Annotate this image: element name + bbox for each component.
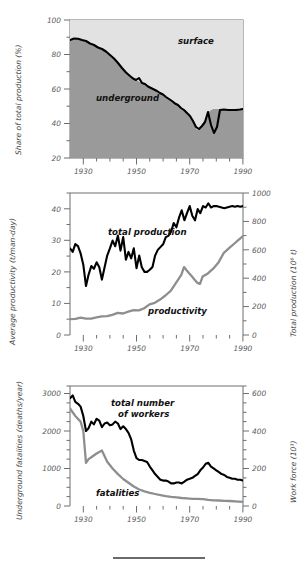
chart3-y2tick-200: 200	[252, 464, 266, 473]
chart1-ytick-40: 40	[52, 119, 62, 128]
chart2-y2tick-200: 200	[252, 302, 266, 311]
chart2-annotation-total-production: total production	[108, 227, 187, 237]
chart2-xtick-1930: 1930	[74, 344, 93, 353]
chart2-y2tick-600: 600	[252, 246, 266, 255]
chart2-y2tick-800: 800	[252, 217, 266, 226]
chart2-xtick-1970: 1970	[180, 344, 199, 353]
chart3-x-ticks	[83, 506, 243, 513]
chart1-ytick-80: 80	[52, 50, 62, 59]
chart-panel-share-of-production: Share of total production (%)	[0, 0, 305, 185]
chart1-x-tick-labels: 1930 1950 1970 1990	[74, 167, 253, 176]
chart1-y-tick-labels: 100 80 60 40 20	[47, 16, 61, 163]
chart2-y2-tick-labels: 0 200 400 600 800 1000	[252, 189, 271, 340]
chart-svg-2: Average productivity (t/man-day) Total p…	[0, 185, 305, 370]
chart3-xtick-1970: 1970	[180, 515, 199, 524]
chart2-xtick-1990: 1990	[233, 344, 252, 353]
chart1-xtick-1990: 1990	[233, 167, 252, 176]
chart3-annotation-of-workers: of workers	[118, 409, 169, 419]
chart1-xtick-1950: 1950	[127, 167, 146, 176]
chart1-ytick-20: 20	[52, 154, 62, 163]
footer-rule	[113, 557, 205, 559]
chart2-ytick-10: 10	[52, 299, 62, 308]
chart3-xtick-1950: 1950	[127, 515, 146, 524]
chart1-xtick-1970: 1970	[180, 167, 199, 176]
chart2-ytick-0: 0	[56, 331, 61, 340]
chart2-y-tick-labels: 0 10 20 30 40	[52, 205, 62, 340]
chart2-y2tick-0: 0	[252, 331, 257, 340]
chart1-ytick-100: 100	[47, 16, 61, 25]
chart2-y2tick-1000: 1000	[252, 189, 271, 198]
chart1-annotation-underground: underground	[96, 93, 160, 103]
chart2-xtick-1950: 1950	[127, 344, 146, 353]
figure-page: Share of total production (%)	[0, 0, 305, 574]
chart-panel-productivity-production: Average productivity (t/man-day) Total p…	[0, 185, 305, 370]
chart3-ytick-3000: 3000	[42, 389, 61, 398]
chart3-annotation-total-number: total number	[111, 398, 175, 408]
chart-svg-3: Underground fatalities (deaths/year) Wor…	[0, 370, 305, 574]
chart1-series-group	[70, 20, 243, 158]
chart2-total-production-line	[70, 203, 243, 286]
chart-panel-fatalities-workforce: Underground fatalities (deaths/year) Wor…	[0, 370, 305, 574]
chart-svg-1: Share of total production (%)	[0, 0, 305, 185]
chart2-x-tick-labels: 1930 1950 1970 1990	[74, 344, 253, 353]
chart2-y2-axis-title: Total production (10⁶ t)	[289, 249, 298, 337]
chart2-ytick-30: 30	[52, 236, 62, 245]
chart3-xtick-1990: 1990	[233, 515, 252, 524]
chart3-annotation-fatalities: fatalities	[96, 488, 139, 498]
chart3-y2-axis-title: Work force (10³)	[289, 441, 298, 503]
chart2-y-axis-title: Average productivity (t/man-day)	[8, 218, 17, 346]
chart3-ytick-1000: 1000	[42, 464, 61, 473]
chart3-y2-tick-labels: 0 200 400 600	[252, 389, 266, 511]
chart1-xtick-1930: 1930	[74, 167, 93, 176]
chart3-x-tick-labels: 1930 1950 1970 1990	[74, 515, 253, 524]
chart2-ytick-20: 20	[52, 268, 62, 277]
chart3-y2tick-0: 0	[252, 502, 257, 511]
chart2-x-ticks	[83, 335, 243, 342]
chart1-y-axis-title: Share of total production (%)	[14, 44, 23, 155]
chart2-y2-ticks	[243, 193, 249, 335]
chart3-xtick-1930: 1930	[74, 515, 93, 524]
chart3-y-tick-labels: 0 1000 2000 3000	[42, 389, 61, 511]
chart3-y2-ticks	[243, 386, 249, 506]
chart2-series-group	[70, 203, 243, 319]
chart1-x-ticks	[83, 158, 243, 165]
chart3-y2tick-600: 600	[252, 389, 266, 398]
chart1-annotation-surface: surface	[178, 36, 214, 46]
chart2-annotation-productivity: productivity	[147, 306, 207, 316]
chart2-ytick-40: 40	[52, 205, 62, 214]
chart1-y-ticks	[64, 20, 70, 158]
chart3-y-ticks	[64, 386, 70, 506]
chart3-ytick-2000: 2000	[42, 427, 61, 436]
chart3-y2tick-400: 400	[252, 427, 266, 436]
chart2-y-ticks	[64, 193, 70, 335]
chart3-y-axis-title: Underground fatalities (deaths/year)	[15, 381, 24, 520]
chart2-y2tick-400: 400	[252, 274, 266, 283]
chart3-ytick-0: 0	[56, 502, 61, 511]
chart1-ytick-60: 60	[52, 85, 62, 94]
